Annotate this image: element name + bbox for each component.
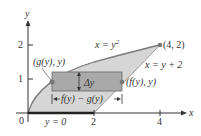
- right-point: [120, 80, 125, 85]
- diagram-canvas: 0 2 4 1 2 x y y = 0 x = y2 x = y + 2 (4,…: [0, 0, 201, 136]
- corner-point-label: (4, 2): [163, 39, 185, 51]
- x-tick-label-2: 2: [91, 116, 96, 127]
- corner-point: [158, 43, 163, 48]
- y-axis-label: y: [24, 8, 30, 19]
- x-tick-label-4: 4: [157, 116, 162, 127]
- y-axis-arrow-icon: [26, 20, 31, 26]
- width-label: f(y) − g(y): [61, 93, 103, 105]
- y-tick-label-2: 2: [18, 39, 23, 50]
- left-point-label: (g(y), y): [33, 56, 66, 68]
- x-axis-label: x: [188, 107, 194, 118]
- left-point-leader: [42, 68, 51, 80]
- left-point: [50, 80, 55, 85]
- y-tick-label-1: 1: [18, 73, 23, 84]
- x-axis-arrow-icon: [181, 111, 187, 116]
- origin-label: 0: [19, 115, 24, 126]
- delta-y-label: Δy: [83, 77, 95, 88]
- line-label: x = y + 2: [144, 59, 182, 70]
- right-point-label: (f(y), y): [126, 76, 157, 88]
- base-label: y = 0: [44, 116, 66, 127]
- parabola-label: x = y2: [94, 38, 120, 50]
